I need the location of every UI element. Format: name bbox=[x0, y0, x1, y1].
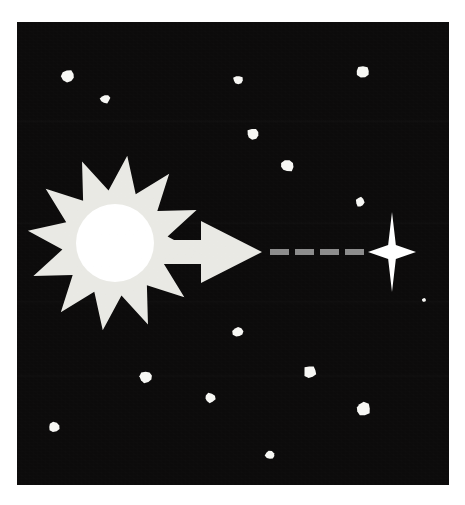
night-sky-panel bbox=[17, 22, 449, 485]
sun-core-circle bbox=[76, 204, 154, 282]
path-dash bbox=[295, 249, 314, 255]
night-sky-svg bbox=[17, 22, 449, 485]
path-dash bbox=[270, 249, 289, 255]
path-dash bbox=[345, 249, 364, 255]
path-dash bbox=[320, 249, 339, 255]
background-star bbox=[357, 66, 369, 77]
illustration-canvas bbox=[0, 0, 465, 505]
